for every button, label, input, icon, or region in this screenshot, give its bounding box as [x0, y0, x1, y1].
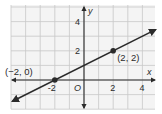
point-label: (−2, 0): [5, 66, 33, 77]
point-label: (2, 2): [117, 52, 139, 63]
y-tick-label: 4: [75, 17, 80, 27]
point-marker: [52, 77, 58, 83]
point-marker: [110, 48, 116, 54]
x-tick-label: 4: [139, 83, 144, 93]
x-tick-label: 2: [110, 83, 115, 93]
origin-label: O: [74, 83, 81, 93]
y-axis-label: y: [87, 6, 93, 16]
x-tick-label: -2: [48, 83, 56, 93]
coordinate-plane: (−2, 0)(2, 2) -22424 x y O: [0, 0, 162, 114]
x-axis-label: x: [146, 67, 152, 77]
y-tick-label: 2: [75, 46, 80, 56]
